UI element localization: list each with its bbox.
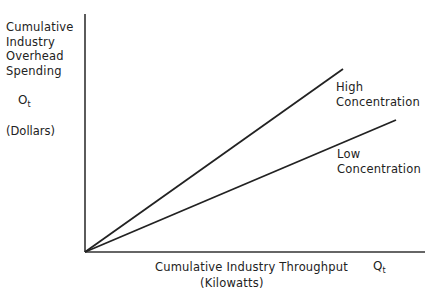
y-axis-label: Cumulative Industry Overhead Spending <box>6 20 74 78</box>
y-symbol-subscript: t <box>27 100 30 109</box>
x-axis-symbol: Qt <box>373 259 386 275</box>
series-label-line: Low <box>337 147 421 162</box>
y-axis-label-line: Industry <box>6 35 74 50</box>
low-concentration-label: Low Concentration <box>337 147 421 177</box>
x-axis-unit: (Kilowatts) <box>200 276 264 290</box>
x-axis-label: Cumulative Industry Throughput <box>155 260 348 274</box>
high-concentration-label: High Concentration <box>336 80 420 110</box>
series-label-line: Concentration <box>337 162 421 177</box>
low-concentration-line <box>85 120 396 252</box>
y-axis-unit: (Dollars) <box>6 124 55 138</box>
high-concentration-line <box>85 69 343 252</box>
y-axis-label-line: Overhead <box>6 49 74 64</box>
x-symbol-subscript: t <box>382 266 385 275</box>
series-label-line: High <box>336 80 420 95</box>
series-label-line: Concentration <box>336 95 420 110</box>
chart: Cumulative Industry Overhead Spending Ot… <box>0 0 445 295</box>
y-axis-label-line: Spending <box>6 64 74 79</box>
y-axis-symbol: Ot <box>18 93 31 109</box>
y-axis-label-line: Cumulative <box>6 20 74 35</box>
